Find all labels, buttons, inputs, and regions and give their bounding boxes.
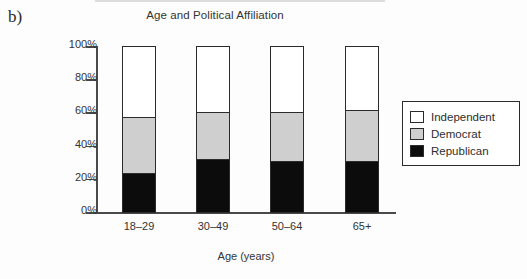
bar-segment-republican [123,174,155,212]
plot-area: 0% 20% 40% 60% 80% 100% [0,0,430,279]
legend-item-independent: Independent [410,108,512,125]
legend-item-republican: Republican [410,142,512,159]
x-category-label: 50–64 [247,220,327,232]
legend-label: Independent [431,111,495,123]
x-category-label: 65+ [322,220,402,232]
y-tick-label: 60% [51,104,97,116]
y-tick-label: 0% [51,204,97,216]
bar-segment-republican [346,162,378,212]
y-tick-label: 40% [51,138,97,150]
bar-segment-independent [123,46,155,117]
legend-swatch-icon [410,145,424,157]
y-tick-label: 100% [51,38,97,50]
y-tick-label: 80% [51,71,97,83]
bar-segment-democrat [271,112,303,162]
bar-segment-democrat [123,117,155,174]
stacked-bar [122,46,156,213]
bar-segment-democrat [346,110,378,162]
legend-swatch-icon [410,128,424,140]
y-tick-label: 20% [51,171,97,183]
chart-figure: b) Age and Political Affiliation 0% 20% … [0,0,527,279]
legend-item-democrat: Democrat [410,125,512,142]
legend-label: Republican [431,145,489,157]
legend-label: Democrat [431,128,481,140]
x-category-label: 18–29 [99,220,179,232]
legend-swatch-icon [410,111,424,123]
bar-segment-independent [271,46,303,112]
chart-legend: Independent Democrat Republican [402,101,520,166]
stacked-bar [196,46,230,213]
bar-segment-republican [271,162,303,212]
x-axis-title: Age (years) [96,250,396,262]
bar-segment-independent [197,46,229,112]
stacked-bar [270,46,304,213]
stacked-bar [345,46,379,213]
bar-segment-independent [346,46,378,110]
bar-segment-republican [197,160,229,212]
x-category-label: 30–49 [173,220,253,232]
bar-segment-democrat [197,112,229,160]
